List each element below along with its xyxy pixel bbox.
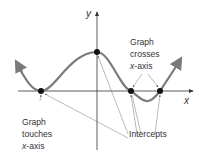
cross-intercept-point-1 [128,88,134,94]
graph-diagram: y x Graph crosses x-axis Graph touches x… [0,0,202,161]
touches-label-line3: x-axis [21,141,44,151]
touch-intercept-point [38,88,44,94]
cross-intercept-point-2 [157,88,163,94]
polynomial-curve [18,52,180,101]
pointer-crosses-label-2 [148,74,158,87]
touches-label-line1: Graph [22,117,46,127]
pointer-touch-intercept [45,94,128,138]
intercepts-label: Intercepts [129,129,167,139]
touches-label-line2: touches [22,129,52,139]
y-intercept-point [94,49,100,55]
crosses-label-line2: crosses [130,49,160,59]
pointer-touch [40,95,41,101]
crosses-label-line3: x-axis [129,61,152,71]
crosses-label-line1: Graph [130,37,154,47]
x-axis-label: x [183,95,190,106]
y-axis-label: y [85,8,92,19]
pointer-crosses-label-1 [133,74,142,87]
